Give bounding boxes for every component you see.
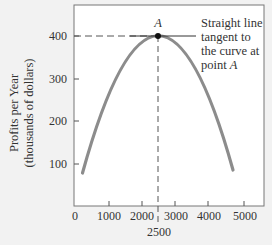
annotation-line-3: the curve at [201, 44, 260, 58]
y-tick-label: 100 [49, 157, 67, 171]
y-axis-title: Profits per Year (thousands of dollars) [7, 58, 36, 167]
x-tick-label: 3000 [164, 209, 188, 223]
x-tick-label: 2000 [130, 209, 154, 223]
y-axis-title-line-1: Profits per Year [7, 73, 21, 152]
annotation-line-4: point A [201, 58, 238, 72]
x-tick-labels: 0 1000 2000 3000 4000 5000 2500 [72, 209, 257, 239]
annotation-line-4-prefix: point [201, 58, 230, 72]
x-tick-label: 5000 [233, 209, 257, 223]
annotation-line-4-italic: A [229, 58, 238, 72]
annotation-line-2: tangent to [201, 30, 251, 44]
y-tick-label: 300 [49, 72, 67, 86]
profit-chart: 400 300 200 100 0 1000 2000 3000 4000 50… [0, 0, 272, 245]
x-reference-label: 2500 [147, 225, 171, 239]
y-tick-label: 400 [49, 29, 67, 43]
y-tick-labels: 400 300 200 100 [49, 29, 67, 171]
point-a-marker [155, 33, 161, 39]
x-tick-label: 1000 [97, 209, 121, 223]
x-tick-label: 4000 [197, 209, 221, 223]
x-tick-label: 0 [72, 209, 78, 223]
y-axis-title-line-2: (thousands of dollars) [22, 58, 36, 167]
annotation-line-1: Straight line [201, 16, 263, 30]
y-tick-label: 200 [49, 114, 67, 128]
point-a-label: A [153, 16, 162, 30]
